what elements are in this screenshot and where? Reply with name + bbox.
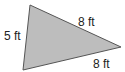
side-label-bottom: 8 ft bbox=[93, 57, 110, 71]
side-label-top: 8 ft bbox=[78, 15, 95, 29]
triangle-diagram: 5 ft 8 ft 8 ft bbox=[0, 0, 125, 72]
side-label-left: 5 ft bbox=[4, 29, 21, 43]
